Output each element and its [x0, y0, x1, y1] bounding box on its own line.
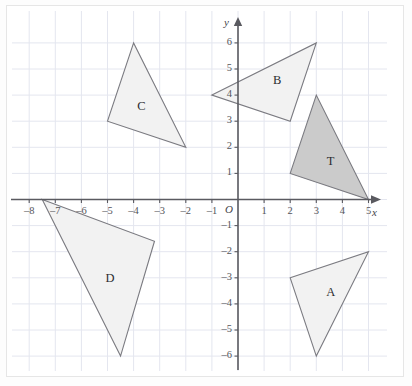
y-axis-tick-label: 5 [206, 62, 232, 73]
y-axis-tick-label: 3 [206, 114, 232, 125]
triangle-label-a: A [321, 285, 341, 300]
y-axis-tick-label: 2 [206, 140, 232, 151]
x-axis-tick-label: 3 [304, 205, 328, 216]
x-axis-tick-label: 4 [330, 205, 354, 216]
x-axis-label: x [372, 206, 377, 218]
y-axis-arrow [234, 17, 242, 26]
triangle-label-d: D [100, 271, 120, 286]
y-axis-tick-label: 1 [206, 166, 232, 177]
y-axis-tick-label: 4 [206, 88, 232, 99]
x-axis-tick-label: –7 [43, 205, 67, 216]
x-axis-tick-label: –8 [17, 205, 41, 216]
x-axis-arrow [371, 195, 381, 203]
x-axis-tick-label: –5 [96, 205, 120, 216]
y-axis-tick-label: –2 [206, 245, 232, 256]
y-axis-tick-label: –6 [206, 349, 232, 360]
x-axis-tick-label: –4 [122, 205, 146, 216]
x-axis-tick-label: –2 [174, 205, 198, 216]
y-axis-tick-label: –5 [206, 323, 232, 334]
x-axis-tick-label: 2 [278, 205, 302, 216]
y-axis-tick-label: –1 [206, 219, 232, 230]
coordinate-grid-figure: –8–7–6–5–4–3–2–112345654321–1–2–3–4–5–6O… [0, 0, 412, 386]
x-axis-tick-label: –1 [200, 205, 224, 216]
y-axis-tick-label: –4 [206, 297, 232, 308]
x-axis-tick-label: –6 [69, 205, 93, 216]
x-axis-tick-label: –3 [148, 205, 172, 216]
x-axis-tick-label: 1 [252, 205, 276, 216]
triangle-label-t: T [321, 154, 341, 169]
triangle-label-c: C [131, 99, 151, 114]
y-axis-tick-label: –3 [206, 271, 232, 282]
triangle-label-b: B [267, 73, 287, 88]
y-axis-label: y [224, 16, 229, 28]
origin-label: O [225, 203, 233, 215]
y-axis-tick-label: 6 [206, 36, 232, 47]
